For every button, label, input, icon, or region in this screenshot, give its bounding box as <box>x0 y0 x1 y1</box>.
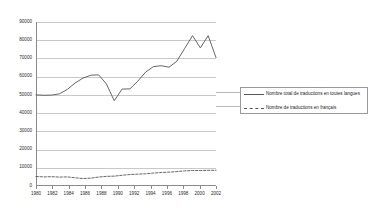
x-axis-tick-mark <box>101 186 102 189</box>
series-line-french <box>36 170 216 178</box>
x-axis-tick-label: 2002 <box>205 192 227 197</box>
legend-item-french: Nombre de traductions en français <box>244 105 336 112</box>
legend-label-french: Nombre de traductions en français <box>266 105 336 111</box>
y-axis-tick-label: 50000 <box>0 93 32 98</box>
chart-container: 0100002000030000400005000060000700008000… <box>0 0 374 216</box>
legend-swatch-dashed-icon <box>244 105 264 111</box>
x-axis-tick-mark <box>200 186 201 189</box>
y-axis-tick-label: 80000 <box>0 38 32 43</box>
x-axis-tick-mark <box>69 186 70 189</box>
y-axis-tick-label: 0 <box>0 184 32 189</box>
y-axis-tick-label: 10000 <box>0 165 32 170</box>
y-axis-tick-label: 20000 <box>0 147 32 152</box>
legend-item-total: Nombre total de traductions en toutes la… <box>244 91 360 98</box>
y-axis-tick-label: 90000 <box>0 20 32 25</box>
legend-label-total: Nombre total de traductions en toutes la… <box>266 91 360 97</box>
x-axis-tick-mark <box>183 186 184 189</box>
series-line-total <box>36 36 216 101</box>
x-axis-tick-mark <box>134 186 135 189</box>
data-series-layer <box>36 22 216 186</box>
x-axis-tick-mark <box>216 186 217 189</box>
x-axis-tick-mark <box>151 186 152 189</box>
legend-leader-line-1 <box>216 92 240 93</box>
y-axis-tick-label: 40000 <box>0 111 32 116</box>
legend-swatch-solid-icon <box>244 91 264 97</box>
y-axis-tick-label: 30000 <box>0 129 32 134</box>
x-axis-tick-mark <box>118 186 119 189</box>
x-axis-tick-mark <box>85 186 86 189</box>
x-axis-tick-mark <box>52 186 53 189</box>
x-axis-tick-mark <box>36 186 37 189</box>
x-axis-tick-mark <box>167 186 168 189</box>
y-axis-tick-label: 70000 <box>0 56 32 61</box>
legend-leader-line-2 <box>216 106 240 107</box>
y-axis-tick-label: 60000 <box>0 74 32 79</box>
legend: Nombre total de traductions en toutes la… <box>240 87 368 114</box>
